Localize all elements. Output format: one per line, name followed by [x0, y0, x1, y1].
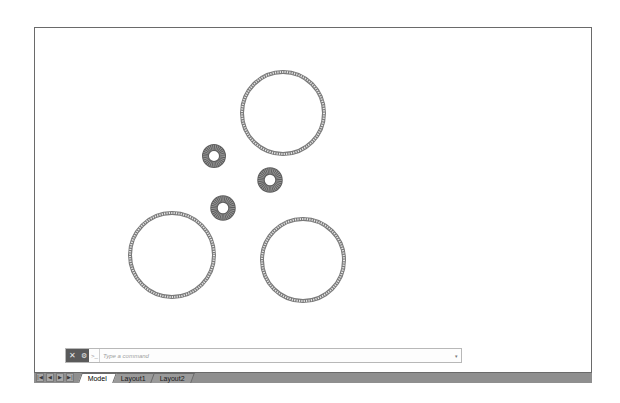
command-line-tools: ✕ ⚙	[66, 349, 89, 362]
command-line: ✕ ⚙ >_ ▾	[65, 348, 462, 363]
tab-layout2[interactable]: Layout2	[150, 373, 195, 383]
first-tab-button[interactable]: |◀	[36, 373, 44, 382]
model-space-viewport[interactable]	[34, 27, 592, 372]
tab-model[interactable]: Model	[78, 373, 117, 383]
chevron-down-icon[interactable]: ▾	[451, 349, 461, 362]
wrench-icon[interactable]: ⚙	[81, 352, 87, 359]
tab-layout1[interactable]: Layout1	[111, 373, 156, 383]
cad-application: ✕ ⚙ >_ ▾ |◀ ◀ ▶ ▶| Model Layout1 Layout2	[0, 0, 620, 403]
command-prompt-icon[interactable]: >_	[90, 349, 100, 362]
last-tab-button[interactable]: ▶|	[66, 373, 74, 382]
tab-model-label: Model	[88, 374, 107, 384]
command-input[interactable]	[100, 349, 451, 362]
tab-layout1-label: Layout1	[121, 374, 146, 384]
layout-tab-bar: |◀ ◀ ▶ ▶| Model Layout1 Layout2	[34, 372, 592, 383]
next-tab-button[interactable]: ▶	[56, 373, 64, 382]
previous-tab-button[interactable]: ◀	[46, 373, 54, 382]
close-icon[interactable]: ✕	[69, 352, 76, 360]
tab-layout2-label: Layout2	[160, 374, 185, 384]
